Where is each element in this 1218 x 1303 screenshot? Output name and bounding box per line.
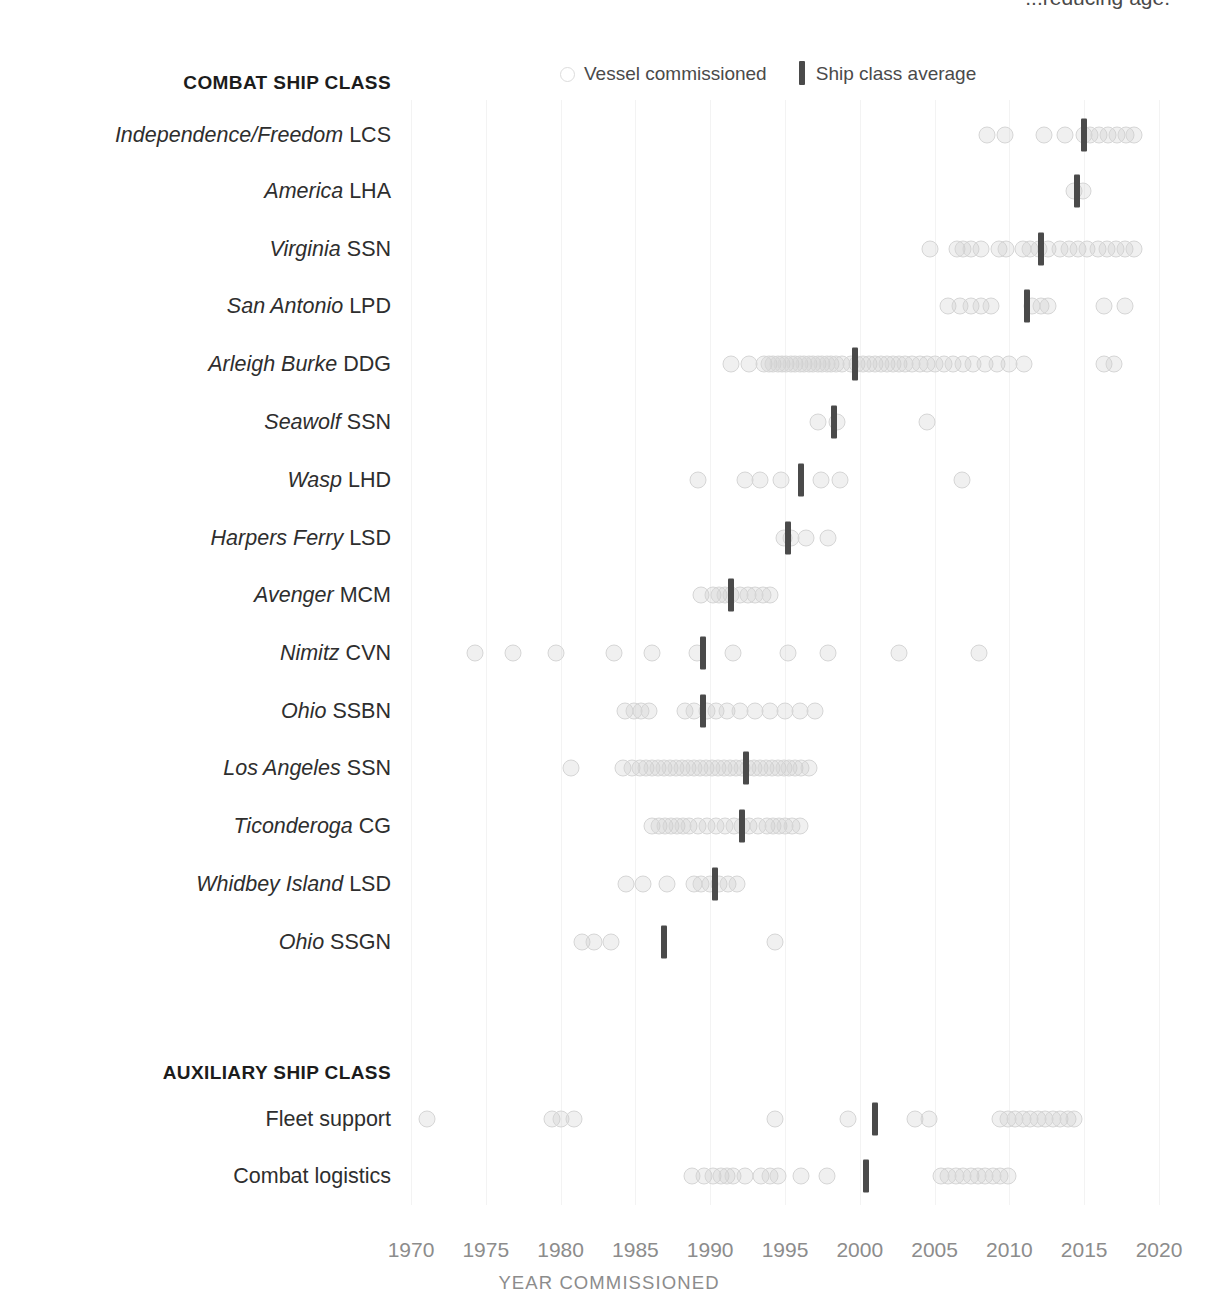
- x-tick-2010: 2010: [986, 1238, 1033, 1262]
- dot-strip-chart: Vessel commissionedShip class average CO…: [0, 0, 1218, 1303]
- row-designation: SSGN: [324, 930, 391, 954]
- vessel-dot: [978, 127, 995, 144]
- vessel-dot: [640, 703, 657, 720]
- vessel-dot: [762, 587, 779, 604]
- row-class-name: Combat logistics: [233, 1164, 391, 1188]
- vertical-bar-icon: [799, 61, 805, 85]
- vessel-dot: [723, 356, 740, 373]
- vessel-dot: [793, 1168, 810, 1185]
- x-tick-1990: 1990: [687, 1238, 734, 1262]
- vessel-dot: [797, 530, 814, 547]
- row-class-name: Avenger: [254, 583, 334, 607]
- gridline-2010: [1009, 100, 1010, 1205]
- vessel-dot: [658, 876, 675, 893]
- row-label: Nimitz CVN: [0, 641, 391, 666]
- vessel-dot: [1065, 1111, 1082, 1128]
- vessel-dot: [953, 472, 970, 489]
- row-designation: MCM: [334, 583, 391, 607]
- vessel-dot: [504, 645, 521, 662]
- x-tick-1985: 1985: [612, 1238, 659, 1262]
- row-class-name: Harpers Ferry: [211, 526, 344, 550]
- vessel-dot: [766, 934, 783, 951]
- vessel-dot: [643, 645, 660, 662]
- row-designation: LHA: [343, 179, 391, 203]
- row-designation: CVN: [340, 641, 391, 665]
- gridline-1975: [486, 100, 487, 1205]
- row-class-name: Whidbey Island: [196, 872, 343, 896]
- vessel-dot: [419, 1111, 436, 1128]
- class-average-bar: [700, 637, 706, 670]
- row-label: Independence/Freedom LCS: [0, 123, 391, 148]
- x-tick-2005: 2005: [911, 1238, 958, 1262]
- class-average-bar: [872, 1103, 878, 1136]
- row-label: America LHA: [0, 179, 391, 204]
- vessel-dot: [920, 1111, 937, 1128]
- vessel-dot: [724, 645, 741, 662]
- row-label: Ohio SSGN: [0, 930, 391, 955]
- vessel-dot: [890, 645, 907, 662]
- row-designation: SSN: [341, 237, 391, 261]
- class-average-bar: [863, 1160, 869, 1193]
- vessel-dot: [772, 472, 789, 489]
- vessel-dot: [1040, 298, 1057, 315]
- vessel-dot: [618, 876, 635, 893]
- x-tick-2020: 2020: [1136, 1238, 1183, 1262]
- gridline-2020: [1159, 100, 1160, 1205]
- vessel-dot: [1016, 356, 1033, 373]
- class-average-bar: [1074, 175, 1080, 208]
- row-designation: DDG: [337, 352, 391, 376]
- vessel-dot: [832, 472, 849, 489]
- class-average-bar: [798, 464, 804, 497]
- row-designation: LSD: [343, 526, 391, 550]
- vessel-dot: [1095, 298, 1112, 315]
- vessel-dot: [809, 414, 826, 431]
- vessel-dot: [999, 1168, 1016, 1185]
- row-class-name: Nimitz: [280, 641, 340, 665]
- row-designation: SSN: [341, 410, 391, 434]
- row-label: Los Angeles SSN: [0, 756, 391, 781]
- row-class-name: America: [264, 179, 343, 203]
- row-class-name: Los Angeles: [223, 756, 341, 780]
- row-designation: LHD: [342, 468, 391, 492]
- row-label: Harpers Ferry LSD: [0, 526, 391, 551]
- row-class-name: Fleet support: [266, 1107, 391, 1131]
- row-class-name: Ohio: [281, 699, 326, 723]
- gridline-1985: [635, 100, 636, 1205]
- row-class-name: Wasp: [287, 468, 342, 492]
- vessel-dot: [603, 934, 620, 951]
- x-tick-1975: 1975: [462, 1238, 509, 1262]
- x-tick-1995: 1995: [762, 1238, 809, 1262]
- vessel-dot: [729, 876, 746, 893]
- vessel-dot: [1116, 298, 1133, 315]
- vessel-dot: [812, 472, 829, 489]
- open-circle-icon: [560, 67, 575, 82]
- class-average-bar: [1038, 233, 1044, 266]
- vessel-dot: [818, 1168, 835, 1185]
- vessel-dot: [922, 241, 939, 258]
- class-average-bar: [785, 522, 791, 555]
- vessel-dot: [779, 645, 796, 662]
- vessel-dot: [566, 1111, 583, 1128]
- vessel-dot: [820, 530, 837, 547]
- row-label: Fleet support: [0, 1107, 391, 1132]
- class-average-bar: [831, 406, 837, 439]
- vessel-dot: [998, 241, 1015, 258]
- vessel-dot: [1125, 241, 1142, 258]
- row-designation: SSN: [341, 756, 391, 780]
- vessel-dot: [585, 934, 602, 951]
- section-header-combat: COMBAT SHIP CLASS: [0, 72, 391, 94]
- class-average-bar: [661, 926, 667, 959]
- chart-legend: Vessel commissionedShip class average: [560, 62, 1008, 86]
- gridline-2015: [1084, 100, 1085, 1205]
- row-label: Virginia SSN: [0, 237, 391, 262]
- legend-item: Vessel commissioned: [560, 63, 767, 86]
- class-average-bar: [700, 695, 706, 728]
- class-average-bar: [852, 348, 858, 381]
- row-label: Avenger MCM: [0, 583, 391, 608]
- vessel-dot: [800, 760, 817, 777]
- row-designation: CG: [353, 814, 391, 838]
- row-class-name: Arleigh Burke: [208, 352, 337, 376]
- row-designation: LPD: [343, 294, 391, 318]
- class-average-bar: [712, 868, 718, 901]
- vessel-dot: [1056, 127, 1073, 144]
